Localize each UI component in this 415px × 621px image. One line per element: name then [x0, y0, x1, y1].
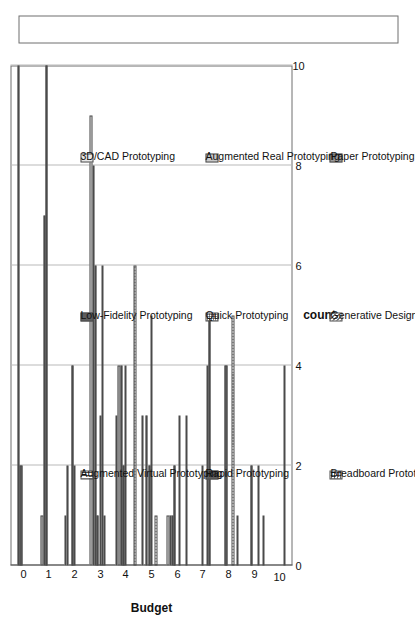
legend-item[interactable]: Augmented Real Prototyping [149, 15, 274, 165]
legend-label: 3D/CAD Prototyping [80, 55, 92, 150]
legend-item[interactable]: Paper Prototyping [273, 15, 398, 165]
bar [262, 515, 264, 565]
legend-label: Generative Design Prototyping [330, 165, 342, 308]
legend-item[interactable]: Generative Design Prototyping [273, 165, 398, 324]
legend: 3D/CAD PrototypingAugmented Real Prototy… [18, 15, 398, 43]
legend-label: Paper Prototyping [330, 65, 342, 149]
x-tick-label: 8 [222, 571, 234, 577]
legend-item[interactable]: Low-Fidelity Prototyping [24, 165, 149, 324]
legend-item[interactable]: Quick Prototyping [149, 165, 274, 324]
bar [236, 515, 238, 565]
legend-item[interactable]: Rapid Prototyping [149, 324, 274, 482]
legend-column: 3D/CAD PrototypingAugmented Real Prototy… [18, 15, 398, 165]
x-tick-label: 2 [68, 571, 80, 577]
legend-label: Rapid Prototyping [205, 383, 217, 466]
bar [103, 515, 105, 565]
x-tick-label: 9 [248, 571, 260, 577]
x-tick-label: 7 [196, 571, 208, 577]
rotated-chart-group: Budget 012345678910 0246810 count 3D/CAD… [0, 0, 415, 621]
x-axis-title-text: Budget [130, 600, 171, 614]
legend-label: Breadboard Prototyping [330, 356, 342, 467]
y-tick-label: 0 [292, 562, 304, 568]
legend-label: Quick Prototyping [205, 225, 217, 308]
x-tick-label: 10 [273, 571, 285, 583]
legend-label: Augmented Virtual Prototyping [80, 324, 92, 466]
bar [154, 515, 156, 565]
x-tick-label: 0 [17, 571, 29, 577]
legend-item[interactable]: Augmented Virtual Prototyping [24, 324, 149, 482]
legend-columns: 3D/CAD PrototypingAugmented Real Prototy… [18, 15, 398, 43]
legend-label: Low-Fidelity Prototyping [80, 196, 92, 308]
legend-item[interactable]: 3D/CAD Prototyping [24, 15, 149, 165]
legend-column: Augmented Virtual PrototypingRapid Proto… [18, 324, 398, 482]
x-tick-label: 4 [119, 571, 131, 577]
legend-label: Augmented Real Prototyping [205, 15, 217, 149]
legend-item[interactable]: Breadboard Prototyping [273, 324, 398, 482]
x-tick-label: 5 [145, 571, 157, 577]
chart-canvas: Budget 012345678910 0246810 count 3D/CAD… [0, 0, 415, 621]
legend-column: Low-Fidelity PrototypingQuick Prototypin… [18, 165, 398, 324]
x-axis-ticks: 012345678910 [10, 567, 292, 601]
x-tick-label: 3 [94, 571, 106, 577]
x-tick-label: 1 [42, 571, 54, 577]
x-tick-label: 6 [171, 571, 183, 577]
